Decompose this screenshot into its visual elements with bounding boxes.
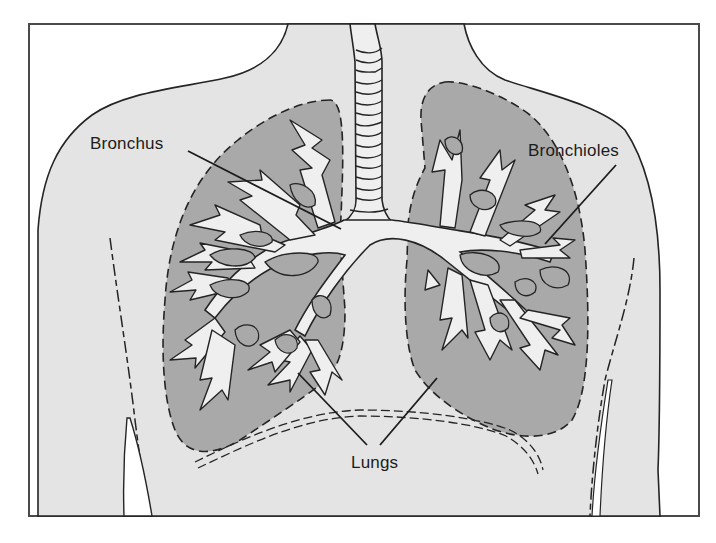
label-bronchioles: Bronchioles — [528, 141, 619, 161]
label-lungs: Lungs — [351, 453, 398, 473]
label-bronchus: Bronchus — [90, 134, 163, 154]
